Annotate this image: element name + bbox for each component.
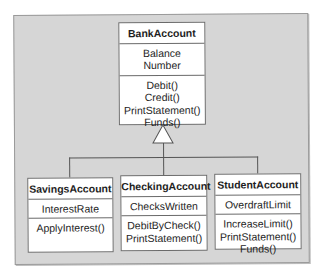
class-checkingaccount: CheckingAccount ChecksWritten DebitByChe… — [120, 175, 207, 252]
class-name: SavingsAccount — [28, 178, 112, 199]
inheritance-arrow-icon — [152, 124, 174, 144]
class-savingsaccount: SavingsAccount InterestRate ApplyInteres… — [27, 177, 113, 253]
operation: Debit() — [120, 78, 205, 91]
class-operations: DebitByCheck() PrintStatement() — [121, 216, 206, 248]
operation: PrintStatement() — [122, 231, 207, 244]
class-operations: ApplyInterest() — [28, 218, 112, 237]
class-bankaccount: BankAccount Balance Number Debit() Credi… — [118, 22, 206, 126]
operation: PrintStatement() — [120, 103, 205, 116]
operation: Credit() — [120, 91, 205, 104]
class-attributes: InterestRate — [28, 199, 112, 219]
operation: DebitByCheck() — [121, 219, 206, 232]
diagram-panel: BankAccount Balance Number Debit() Credi… — [13, 13, 310, 265]
operation: Funds() — [216, 242, 301, 255]
attribute: OverdraftLimit — [215, 198, 300, 211]
attribute: ChecksWritten — [121, 199, 206, 212]
class-name: StudentAccount — [215, 174, 300, 195]
class-name: BankAccount — [119, 23, 204, 44]
attribute: Number — [120, 59, 205, 72]
class-name: CheckingAccount — [121, 176, 206, 197]
attribute: Balance — [119, 46, 204, 59]
class-attributes: ChecksWritten — [121, 196, 206, 216]
operation: IncreaseLimit() — [215, 217, 300, 230]
class-attributes: Balance Number — [119, 43, 204, 76]
operation: ApplyInterest() — [29, 221, 113, 234]
connector-right — [257, 156, 258, 174]
attribute: InterestRate — [28, 202, 112, 215]
connector-trunk — [163, 143, 164, 176]
operation: PrintStatement() — [216, 230, 301, 243]
class-operations: IncreaseLimit() PrintStatement() Funds() — [215, 214, 300, 258]
connector-left — [69, 158, 70, 179]
class-studentaccount: StudentAccount OverdraftLimit IncreaseLi… — [214, 173, 301, 250]
class-attributes: OverdraftLimit — [215, 195, 300, 215]
